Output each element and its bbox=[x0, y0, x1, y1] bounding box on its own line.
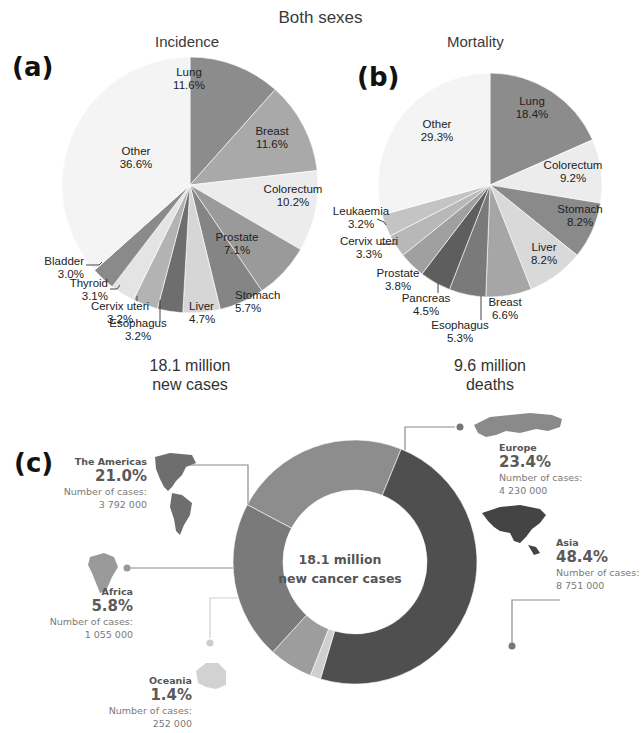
slice-label-breast: Breast6.6% bbox=[488, 296, 522, 321]
slice-label-stomach: Stomach5.7% bbox=[235, 289, 280, 314]
mortality-pie bbox=[378, 73, 602, 297]
region-africa: Africa 5.8% Number of cases: 1 055 000 bbox=[40, 585, 133, 641]
slice-label-other: Other36.6% bbox=[120, 145, 153, 170]
slice-label-esophagus: Esophagus5.3% bbox=[431, 319, 489, 344]
mortality-total: 9.6 million deaths bbox=[410, 356, 570, 394]
slice-label-leukaemia: Leukaemia3.2% bbox=[333, 205, 390, 230]
oceania-map-icon bbox=[196, 663, 226, 689]
slice-label-bladder: Bladder3.0% bbox=[44, 255, 84, 280]
slice-label-other: Other29.3% bbox=[421, 118, 454, 143]
slice-label-pancreas: Pancreas4.5% bbox=[402, 292, 451, 317]
slice-label-prostate: Prostate3.8% bbox=[377, 267, 420, 292]
slice-label-lung: Lung11.6% bbox=[173, 66, 205, 91]
incidence-total: 18.1 million new cases bbox=[110, 356, 270, 394]
asia-map-icon bbox=[482, 505, 546, 555]
americas-map-icon bbox=[155, 453, 196, 535]
slice-label-liver: Liver8.2% bbox=[531, 241, 557, 266]
slice-label-lung: Lung18.4% bbox=[516, 95, 549, 120]
region-asia: Asia 48.4% Number of cases: 8 751 000 bbox=[556, 536, 641, 592]
slice-label-thyroid: Thyroid3.1% bbox=[70, 277, 108, 302]
slice-europe bbox=[247, 440, 401, 528]
region-oceania: Oceania 1.4% Number of cases: 252 000 bbox=[100, 674, 192, 730]
slice-label-liver: Liver4.7% bbox=[189, 300, 215, 325]
donut-center-label: 18.1 million new cancer cases bbox=[276, 550, 404, 588]
pie-charts: Lung11.6%Breast11.6%Colorectum10.2%Prost… bbox=[0, 0, 641, 400]
region-americas: The Americas 21.0% Number of cases: 3 79… bbox=[60, 455, 147, 511]
slice-label-breast: Breast11.6% bbox=[255, 125, 289, 150]
slice-label-cervix-uteri: Cervix uteri3.3% bbox=[340, 235, 398, 260]
europe-map-icon bbox=[474, 413, 562, 437]
region-europe: Europe 23.4% Number of cases: 4 230 000 bbox=[499, 441, 619, 497]
